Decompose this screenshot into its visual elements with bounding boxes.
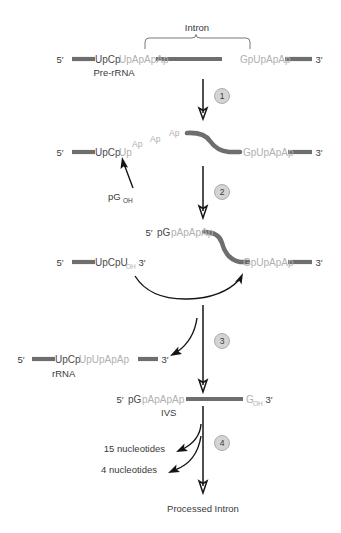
step1-diag-ap-2: Ap bbox=[150, 134, 161, 144]
step2-arrow-group bbox=[199, 166, 207, 218]
step-badge-2: 2 bbox=[215, 185, 230, 200]
ivs-seq-light: pApApAp bbox=[142, 394, 185, 405]
cofactor-subscript: OH bbox=[123, 197, 133, 204]
pre-rrna-exon1-dark: UpCp bbox=[95, 54, 121, 65]
pre-rrna-5prime: 5′ bbox=[56, 54, 63, 65]
rrna-seq-light: UpUpApAp bbox=[79, 354, 129, 365]
rrna-5prime: 5′ bbox=[17, 354, 24, 365]
pre-rrna-exon2-light: GpUpApAp bbox=[240, 54, 291, 65]
cofactor-attack-arrow-group bbox=[121, 157, 134, 188]
step2-right-3prime: 3′ bbox=[315, 257, 322, 268]
step4-arrow-head bbox=[199, 481, 207, 493]
rrna-name: rRNA bbox=[52, 368, 76, 379]
step1-diag-ap-3: Ap bbox=[169, 128, 180, 138]
cofactor-attack-curve bbox=[124, 164, 133, 188]
step-badge-3: 3 bbox=[215, 334, 230, 349]
step2-left-3prime: 3′ bbox=[138, 257, 145, 268]
intron-bracket bbox=[145, 35, 250, 50]
step2-left-5prime: 5′ bbox=[56, 257, 63, 268]
step-badge-1: 1 bbox=[215, 89, 230, 104]
step1-right-light: GpUpApAp bbox=[243, 147, 294, 158]
step-badge-4: 4 bbox=[215, 436, 230, 451]
step1-number: 1 bbox=[220, 91, 225, 101]
step1-arrow-head bbox=[199, 108, 207, 119]
ivs-seq-dark: pG bbox=[128, 394, 142, 405]
pre-rrna-exon1-light: UpApApAp bbox=[119, 54, 169, 65]
step3-arrow-group bbox=[170, 305, 207, 392]
fragment-4-nucleotides: 4 nucleotides bbox=[101, 464, 157, 475]
fragment-15-nucleotides: 15 nucleotides bbox=[104, 443, 166, 454]
step2-product-dark: pG bbox=[157, 227, 171, 238]
step1-seq-dark: UpCp bbox=[95, 147, 121, 158]
pre-rrna-3prime: 3′ bbox=[315, 54, 322, 65]
step1-seq-light: Up bbox=[119, 147, 132, 158]
rrna-3prime: 3′ bbox=[161, 354, 168, 365]
step4-number: 4 bbox=[220, 438, 225, 448]
step1-3prime: 3′ bbox=[315, 147, 322, 158]
step2-number: 2 bbox=[220, 187, 225, 197]
step3-branch-curve bbox=[177, 318, 197, 352]
rrna-seq-dark: UpCp bbox=[55, 354, 81, 365]
step4-branch2-curve bbox=[175, 436, 201, 470]
ivs-3prime: 3′ bbox=[265, 394, 272, 405]
pre-rrna-name: Pre-rRNA bbox=[93, 67, 135, 78]
step1-diag-ap-1: Ap bbox=[132, 139, 143, 149]
step1-5prime: 5′ bbox=[56, 147, 63, 158]
step2-left-seq: UpCpU bbox=[95, 257, 128, 268]
ivs-5prime: 5′ bbox=[116, 394, 123, 405]
ligation-sweep-curve bbox=[135, 276, 239, 299]
step2-product-5prime: 5′ bbox=[145, 227, 152, 238]
ivs-end-subscript: OH bbox=[253, 400, 263, 407]
cofactor-label: pG bbox=[108, 191, 121, 202]
step4-arrow-group bbox=[168, 406, 207, 493]
step3-branch-head bbox=[170, 347, 182, 357]
cofactor-label-group: pG OH bbox=[108, 191, 133, 204]
step1-arrow-group bbox=[199, 79, 207, 119]
rna-splicing-diagram: Intron 5′ UpCp UpApApAp GpUpApAp 3′ Pre-… bbox=[0, 0, 341, 533]
step2-product-light: pApApAp bbox=[171, 227, 214, 238]
diagram-canvas: Intron 5′ UpCp UpApApAp GpUpApAp 3′ Pre-… bbox=[0, 0, 341, 533]
intron-bracket-group bbox=[145, 35, 250, 50]
step3-number: 3 bbox=[220, 336, 225, 346]
ligation-arrow-group bbox=[135, 273, 243, 299]
cofactor-attack-head bbox=[121, 157, 129, 169]
intron-label: Intron bbox=[185, 22, 209, 33]
step2-left-subscript: OH bbox=[126, 263, 136, 270]
step1-intron-curve bbox=[187, 133, 240, 152]
processed-intron-label: Processed Intron bbox=[167, 503, 239, 514]
ivs-name: IVS bbox=[161, 407, 176, 418]
step2-arrow-head bbox=[199, 206, 207, 218]
step2-right-seq: GpUpApAp bbox=[243, 257, 294, 268]
step3-arrow-head bbox=[199, 380, 207, 392]
